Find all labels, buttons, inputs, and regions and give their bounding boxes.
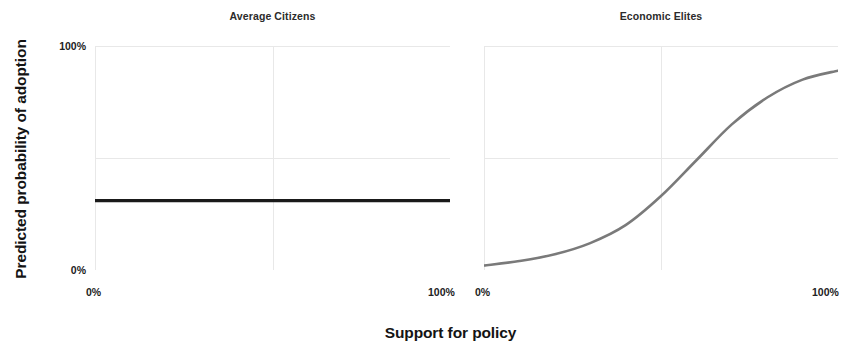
- y-axis-title: Predicted probability of adoption: [12, 9, 30, 309]
- x-tick-label-left-0: 0%: [86, 286, 101, 298]
- y-tick-label-0: 0%: [36, 264, 86, 276]
- panel-title-economic-elites: Economic Elites: [484, 10, 838, 22]
- gridlines-economic-elites: [484, 46, 838, 270]
- panel-title-average-citizens: Average Citizens: [95, 10, 450, 22]
- panel-average-citizens: [95, 46, 450, 270]
- x-tick-label-right-0: 0%: [475, 286, 490, 298]
- gridlines-average-citizens: [95, 46, 450, 270]
- x-tick-label-left-100: 100%: [428, 286, 455, 298]
- plot-area-economic-elites: [484, 46, 838, 270]
- faceted-line-chart: Predicted probability of adoption Suppor…: [0, 0, 843, 348]
- x-tick-label-right-100: 100%: [812, 286, 839, 298]
- y-tick-label-100: 100%: [36, 40, 86, 52]
- x-axis-title: Support for policy: [0, 324, 843, 342]
- panel-economic-elites: [484, 46, 838, 270]
- plot-area-average-citizens: [95, 46, 450, 270]
